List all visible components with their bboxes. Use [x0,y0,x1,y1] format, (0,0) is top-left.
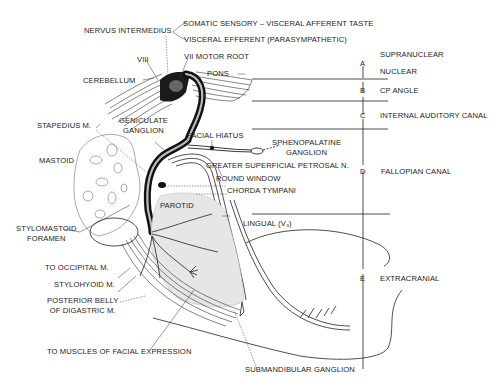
segment-scale [252,66,390,369]
label-lingual: LINGUAL (V₃) [243,220,292,228]
label-round-window: ROUND WINDOW [216,175,280,183]
label-nervus-intermedius: NERVUS INTERMEDIUS [84,27,172,35]
round-window-dot [158,182,166,188]
segment-letter-d: D [360,168,365,176]
label-sphenopalatine-line2: GANGLION [272,149,341,157]
segment-d-fallopian-canal: FALLOPIAN CANAL [381,168,451,176]
label-stapedius: STAPEDIUS M. [37,122,91,130]
label-viii: VIII [137,56,149,64]
stylomastoid-foramen-outline [90,218,138,246]
label-stylomastoid-foramen: STYLOMASTOID FORAMEN [16,225,77,242]
parotid-gland [151,193,244,307]
label-stylomastoid-line1: STYLOMASTOID [16,225,77,233]
segment-e-extracranial: EXTRACRANIAL [380,275,439,283]
label-mastoid: MASTOID [39,157,74,165]
label-facial-hiatus: FACIAL HIATUS [187,132,244,140]
label-submandibular-ganglion: SUBMANDIBULAR GANGLION [245,366,355,374]
label-vii-motor-root: VII MOTOR ROOT [184,53,249,61]
label-somatic-sensory: SOMATIC SENSORY – VISCERAL AFFERENT TAST… [183,20,373,28]
segment-a-nuclear: NUCLEAR [380,68,417,76]
label-posterior-belly-line2: OF DIGASTRIC M. [47,307,118,315]
gspn-nerve [188,145,280,154]
root-entry-highlight [169,80,183,92]
label-geniculate-line2: GANGLION [119,127,168,135]
label-geniculate-ganglion: GENICULATE GANGLION [119,117,168,134]
label-sphenopalatine-line1: SPHENOPALATINE [272,139,341,147]
label-sphenopalatine-ganglion: SPHENOPALATINE GANGLION [272,139,341,156]
label-parotid: PAROTID [160,202,194,210]
label-posterior-belly-digastric: POSTERIOR BELLY OF DIGASTRIC M. [47,297,118,314]
segment-letter-a: A [360,60,365,68]
segment-a-supranuclear: SUPRANUCLEAR [380,51,444,59]
label-geniculate-line1: GENICULATE [119,117,168,125]
mastoid-bone [74,134,140,236]
segment-b-cp-angle: CP ANGLE [380,87,419,95]
segment-c-internal-auditory-canal: INTERNAL AUDITORY CANAL [380,112,488,120]
segment-letter-c: C [360,112,365,120]
label-to-muscles-facial-expression: TO MUSCLES OF FACIAL EXPRESSION [47,348,191,356]
segment-letter-e: E [360,275,365,283]
label-greater-superficial-petrosal: GREATER SUPERFICIAL PETROSAL N. [206,162,349,170]
label-pons: PONS [207,70,229,78]
label-stylomastoid-line2: FORAMEN [16,235,77,243]
segment-letter-b: B [360,87,365,95]
label-chorda-tympani: CHORDA TYMPANI [227,187,296,195]
label-visceral-efferent: VISCERAL EFFERENT (PARASYMPATHETIC) [184,36,347,44]
label-stylohyoid: STYLOHYOID M. [54,281,115,289]
label-cerebellum: CEREBELLUM [83,77,135,85]
label-posterior-belly-line1: POSTERIOR BELLY [47,297,118,305]
label-to-occipital: TO OCCIPITAL M. [45,264,109,272]
